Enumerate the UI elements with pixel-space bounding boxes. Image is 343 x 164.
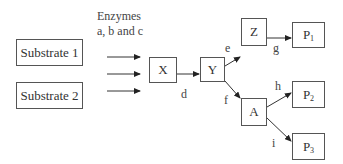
- node-substrate-1: Substrate 1: [16, 39, 83, 66]
- edge-label-d: d: [181, 88, 187, 100]
- node-a-label: A: [249, 104, 258, 120]
- node-substrate-2: Substrate 2: [16, 82, 83, 109]
- node-x: X: [149, 57, 177, 83]
- arrow-y-to-z: [225, 57, 240, 66]
- node-substrate-1-label: Substrate 1: [20, 45, 78, 61]
- edge-label-i: i: [272, 137, 275, 149]
- arrow-a-to-p2: [267, 93, 291, 107]
- node-p1-label: P1: [303, 27, 314, 43]
- node-p1: P1: [292, 22, 325, 48]
- edge-label-g: g: [273, 42, 279, 54]
- node-a: A: [241, 98, 267, 126]
- enzymes-label-line2: a, b and c: [97, 24, 143, 39]
- arrow-a-to-p3: [267, 118, 291, 141]
- node-p3-label: P3: [303, 139, 314, 155]
- node-y: Y: [200, 57, 225, 82]
- node-z-label: Z: [250, 24, 258, 40]
- enzymes-label-line1: Enzymes: [97, 9, 143, 24]
- node-p2: P2: [292, 81, 325, 108]
- node-z: Z: [241, 18, 267, 46]
- enzymes-label: Enzymes a, b and c: [97, 9, 143, 39]
- node-substrate-2-label: Substrate 2: [20, 88, 78, 104]
- edge-label-e: e: [225, 42, 230, 54]
- node-p3: P3: [292, 133, 325, 160]
- edge-label-h: h: [275, 80, 281, 92]
- edge-label-f: f: [224, 94, 228, 106]
- node-x-label: X: [158, 62, 167, 78]
- node-y-label: Y: [208, 62, 217, 78]
- node-p2-label: P2: [303, 87, 314, 103]
